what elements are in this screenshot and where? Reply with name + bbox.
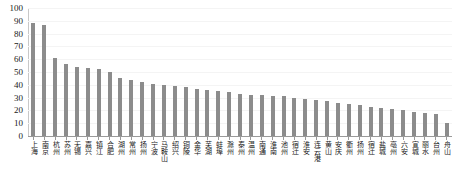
bar — [151, 84, 155, 136]
tick-slot — [267, 136, 278, 140]
bar — [173, 86, 177, 136]
x-axis-tick — [44, 136, 45, 140]
x-axis-category-label: 滁州 — [226, 141, 233, 155]
bar — [162, 85, 166, 136]
x-axis-tick — [153, 136, 154, 140]
x-axis-tick — [98, 136, 99, 140]
bar-series — [28, 8, 452, 136]
bar-slot — [93, 8, 104, 136]
x-axis-labels: 上海南京杭州苏州无锡嘉兴镇江合肥湖州常州扬州宁波马鞍山绍兴铜陵金华芜湖蚌埠滁州泰… — [28, 141, 452, 191]
tick-slot — [441, 136, 452, 140]
x-label-slot: 绍兴 — [169, 141, 180, 191]
tick-slot — [169, 136, 180, 140]
x-axis-category-label: 安庆 — [334, 141, 341, 155]
x-axis-tick — [370, 136, 371, 140]
tick-slot — [61, 136, 72, 140]
x-axis-category-label: 衢州 — [345, 141, 352, 155]
x-label-slot: 淮南 — [267, 141, 278, 191]
bar — [195, 89, 199, 136]
x-label-slot: 蚌埠 — [213, 141, 224, 191]
x-axis-tick — [163, 136, 164, 140]
x-axis-tick — [250, 136, 251, 140]
x-axis-ticks — [28, 136, 452, 140]
x-axis-category-label: 湖州 — [117, 141, 124, 155]
bar — [347, 104, 351, 136]
x-axis-tick — [55, 136, 56, 140]
x-label-slot: 宿迁 — [289, 141, 300, 191]
x-axis-category-label: 苏州 — [63, 141, 70, 155]
tick-slot — [93, 136, 104, 140]
bar — [423, 113, 427, 136]
x-axis-category-label: 宁波 — [150, 141, 157, 155]
x-axis-tick — [218, 136, 219, 140]
x-axis-tick — [131, 136, 132, 140]
bar — [369, 107, 373, 136]
x-axis-tick — [272, 136, 273, 140]
x-axis-tick — [66, 136, 67, 140]
bar-slot — [224, 8, 235, 136]
x-axis-tick — [87, 136, 88, 140]
x-label-slot: 泰州 — [235, 141, 246, 191]
x-label-slot: 淮安 — [300, 141, 311, 191]
bar — [401, 110, 405, 136]
bar-slot — [420, 8, 431, 136]
x-label-slot: 南通 — [256, 141, 267, 191]
x-label-slot: 丽水 — [420, 141, 431, 191]
x-label-slot: 常州 — [126, 141, 137, 191]
x-axis-tick — [174, 136, 175, 140]
x-label-slot: 台州 — [430, 141, 441, 191]
x-label-slot: 衢州 — [343, 141, 354, 191]
tick-slot — [322, 136, 333, 140]
x-axis-category-label: 杭州 — [52, 141, 59, 155]
y-axis-tick-label: 40 — [14, 80, 23, 89]
bar — [314, 100, 318, 136]
bar-slot — [180, 8, 191, 136]
bar-slot — [39, 8, 50, 136]
bar — [108, 72, 112, 136]
x-axis-tick — [229, 136, 230, 140]
x-label-slot: 合肥 — [104, 141, 115, 191]
x-axis-category-label: 亳州 — [389, 141, 396, 155]
bar — [292, 98, 296, 136]
tick-slot — [72, 136, 83, 140]
x-axis-category-label: 宿迁 — [367, 141, 374, 155]
bar-slot — [28, 8, 39, 136]
x-axis-category-label: 蚌埠 — [215, 141, 222, 155]
y-axis-tick-label: 70 — [14, 42, 23, 51]
bar — [227, 92, 231, 136]
x-axis-tick — [424, 136, 425, 140]
bar — [379, 108, 383, 136]
bar — [434, 114, 438, 136]
x-axis-tick — [142, 136, 143, 140]
bar-slot — [137, 8, 148, 136]
x-label-slot: 上海 — [28, 141, 39, 191]
x-axis-category-label: 温州 — [247, 141, 254, 155]
x-axis-tick — [261, 136, 262, 140]
tick-slot — [256, 136, 267, 140]
bar — [260, 95, 264, 136]
bar-slot — [441, 8, 452, 136]
tick-slot — [191, 136, 202, 140]
y-axis-tick-label: 50 — [14, 68, 23, 77]
x-axis-category-label: 南通 — [258, 141, 265, 155]
x-axis-tick — [327, 136, 328, 140]
bar — [325, 101, 329, 136]
x-axis-tick — [414, 136, 415, 140]
x-axis-category-label: 台州 — [432, 141, 439, 155]
x-axis-tick — [381, 136, 382, 140]
x-axis-category-label: 扬州 — [356, 141, 363, 155]
x-label-slot: 马鞍山 — [159, 141, 170, 191]
bar — [216, 91, 220, 136]
tick-slot — [126, 136, 137, 140]
x-label-slot: 镇江 — [93, 141, 104, 191]
bar-slot — [365, 8, 376, 136]
bar — [336, 103, 340, 136]
tick-slot — [387, 136, 398, 140]
bar-slot — [398, 8, 409, 136]
y-axis-labels: 0102030405060708090100 — [0, 0, 26, 145]
x-label-slot: 盐城 — [376, 141, 387, 191]
x-axis-category-label: 芜湖 — [204, 141, 211, 155]
tick-slot — [28, 136, 39, 140]
x-axis-tick — [196, 136, 197, 140]
tick-slot — [278, 136, 289, 140]
